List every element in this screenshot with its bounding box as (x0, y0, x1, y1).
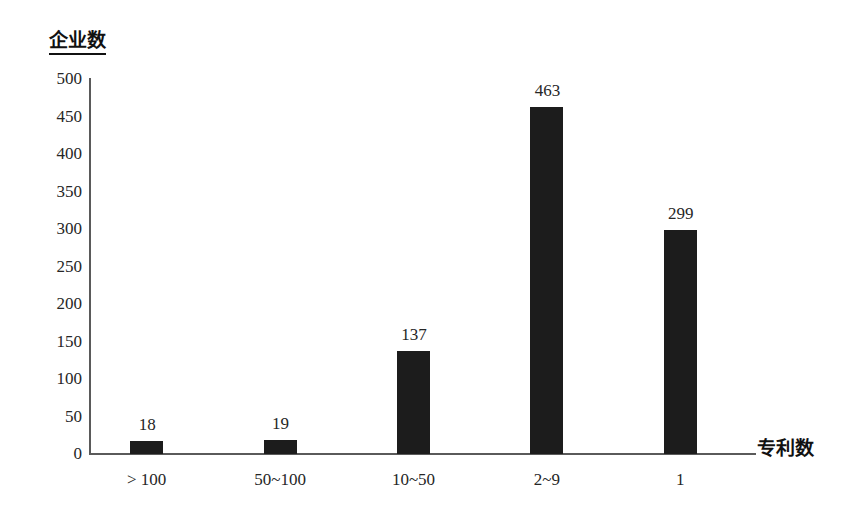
category-label: 50~100 (220, 470, 340, 489)
y-tick-label: 200 (38, 295, 82, 312)
category-label: > 100 (87, 470, 207, 489)
y-tick-label: 500 (38, 70, 82, 87)
y-tick-label: 350 (38, 183, 82, 200)
y-tick-label: 0 (38, 445, 82, 462)
y-tick-label: 400 (38, 145, 82, 162)
y-tick-label: 150 (38, 333, 82, 350)
y-tick-label: 50 (38, 408, 82, 425)
y-tick-label: 100 (38, 370, 82, 387)
x-axis-title: 专利数 (757, 437, 814, 460)
x-axis-category-labels: > 10050~10010~502~91 (89, 0, 756, 516)
y-tick-label: 450 (38, 108, 82, 125)
category-label: 1 (620, 470, 740, 489)
y-tick-label: 250 (38, 258, 82, 275)
y-tick-label: 300 (38, 220, 82, 237)
category-label: 2~9 (487, 470, 607, 489)
y-axis-tick-labels: 050100150200250300350400450500 (30, 0, 82, 516)
category-label: 10~50 (354, 470, 474, 489)
bar-chart: 企业数 专利数 050100150200250300350400450500 1… (0, 0, 858, 516)
